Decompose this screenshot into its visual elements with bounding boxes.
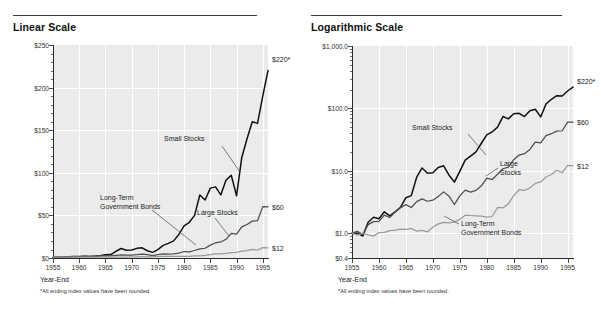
x-tick — [263, 259, 264, 263]
y-minor-tick — [350, 214, 353, 215]
y-tick-label: $100 — [5, 169, 49, 176]
x-tick-label: 1980 — [479, 264, 494, 271]
y-minor-tick — [51, 241, 54, 242]
y-minor-tick — [350, 247, 353, 248]
y-minor-tick — [350, 236, 353, 237]
y-tick-label: $1.0 — [304, 230, 348, 237]
y-minor-tick — [350, 49, 353, 50]
y-tick-label: $0.4 — [304, 255, 348, 262]
y-minor-tick — [51, 164, 54, 165]
y-minor-tick — [350, 114, 353, 115]
end-label-3: $12 — [577, 162, 589, 169]
annotation-long-term-government-bonds: Long-Term Government Bonds — [461, 220, 521, 237]
y-minor-tick — [350, 203, 353, 204]
x-tick-label: 1995 — [560, 264, 575, 271]
x-tick-label: 1965 — [98, 264, 113, 271]
x-tick — [568, 259, 569, 263]
end-label-3: $12 — [272, 244, 284, 251]
x-tick — [184, 259, 185, 263]
annotation-small-stocks: Small Stocks — [164, 135, 204, 144]
x-tick-label: 1955 — [46, 264, 61, 271]
y-tick-label: $1,000.0 — [304, 43, 348, 50]
end-label-1: $220* — [577, 78, 595, 85]
y-minor-tick — [51, 156, 54, 157]
y-minor-tick — [350, 174, 353, 175]
y-minor-tick — [51, 79, 54, 80]
y-tick — [348, 108, 352, 109]
leader-line-small-stocks — [222, 146, 240, 172]
x-tick-label: 1960 — [372, 264, 387, 271]
x-axis-name-logarithmic: Year-End — [338, 276, 367, 283]
x-tick — [79, 259, 80, 263]
x-tick — [132, 259, 133, 263]
y-minor-tick — [51, 198, 54, 199]
series-small-stocks — [352, 87, 573, 236]
y-minor-tick — [51, 96, 54, 97]
x-tick — [158, 259, 159, 263]
y-minor-tick — [51, 105, 54, 106]
panel-logarithmic-scale: Logarithmic Scale Year-End *All ending i… — [300, 0, 601, 310]
y-minor-tick — [350, 185, 353, 186]
annotation-small-stocks: Small Stocks — [412, 124, 452, 133]
leader-line-small-stocks — [468, 134, 486, 155]
y-tick-label: $10.0 — [304, 167, 348, 174]
x-tick — [379, 259, 380, 263]
y-minor-tick — [51, 122, 54, 123]
y-minor-tick — [51, 139, 54, 140]
x-tick-label: 1975 — [452, 264, 467, 271]
y-minor-tick — [350, 252, 353, 253]
x-tick-label: 1955 — [345, 264, 360, 271]
y-tick-label: $250 — [5, 42, 49, 49]
x-tick-label: 1975 — [151, 264, 166, 271]
y-tick — [348, 171, 352, 172]
x-tick-label: 1985 — [506, 264, 521, 271]
x-tick-label: 1980 — [177, 264, 192, 271]
y-minor-tick — [350, 122, 353, 123]
footnote-logarithmic: *All ending index values have been round… — [338, 288, 449, 294]
x-tick-label: 1960 — [72, 264, 87, 271]
y-minor-tick — [350, 111, 353, 112]
y-minor-tick — [350, 118, 353, 119]
x-tick-label: 1990 — [533, 264, 548, 271]
y-minor-tick — [350, 52, 353, 53]
y-minor-tick — [51, 232, 54, 233]
y-minor-tick — [350, 127, 353, 128]
x-tick-label: 1990 — [229, 264, 244, 271]
x-tick — [460, 259, 461, 263]
x-tick — [53, 259, 54, 263]
x-tick — [487, 259, 488, 263]
two-panel-chart-figure: Linear Scale Year-End *All ending index … — [0, 0, 601, 310]
x-tick — [406, 259, 407, 263]
annotation-large-stocks: Large Stocks — [197, 209, 238, 218]
y-minor-tick — [350, 65, 353, 66]
y-tick — [49, 88, 53, 89]
y-minor-tick — [51, 54, 54, 55]
x-axis-name-linear: Year-End — [40, 276, 69, 283]
leader-line-large-stocks — [215, 218, 229, 236]
end-label-2: $60 — [272, 203, 284, 210]
y-minor-tick — [51, 147, 54, 148]
y-minor-tick — [350, 60, 353, 61]
x-tick — [105, 259, 106, 263]
x-tick — [514, 259, 515, 263]
y-minor-tick — [350, 190, 353, 191]
panel-linear-scale: Linear Scale Year-End *All ending index … — [0, 0, 300, 310]
y-tick-label: $0 — [5, 255, 49, 262]
y-minor-tick — [350, 177, 353, 178]
y-tick — [49, 130, 53, 131]
end-label-1: $220* — [272, 55, 290, 62]
y-minor-tick — [350, 56, 353, 57]
y-tick — [348, 46, 352, 47]
y-minor-tick — [350, 239, 353, 240]
y-minor-tick — [51, 62, 54, 63]
annotation-long-term-government-bonds: Long-Term Government Bonds — [100, 194, 160, 211]
y-minor-tick — [51, 207, 54, 208]
y-minor-tick — [350, 141, 353, 142]
annotation-large-stocks: Large Stocks — [500, 160, 521, 177]
x-tick — [237, 259, 238, 263]
x-tick — [541, 259, 542, 263]
x-tick-label: 1985 — [203, 264, 218, 271]
y-minor-tick — [51, 113, 54, 114]
x-tick-label: 1995 — [255, 264, 270, 271]
y-minor-tick — [350, 133, 353, 134]
